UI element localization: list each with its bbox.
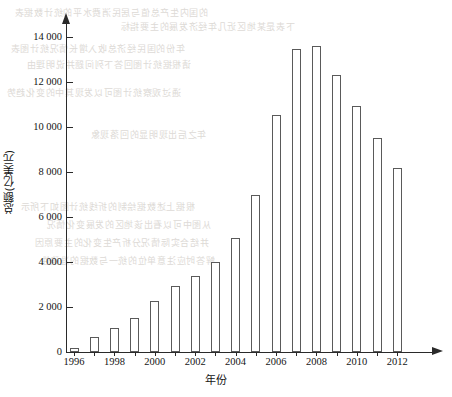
y-axis-tick-label-wrap: 2 000: [0, 302, 62, 313]
bar: [352, 106, 361, 352]
y-axis-tick-label-wrap: 4 000: [0, 257, 62, 268]
x-axis-arrowhead: [432, 347, 443, 355]
bar: [231, 238, 240, 352]
y-axis-tick-label: 6 000: [38, 212, 62, 223]
y-axis-tick-label: 12 000: [33, 77, 62, 88]
y-axis-tick-label-wrap: 0: [0, 347, 62, 358]
x-axis-title: 年份: [0, 371, 452, 387]
x-axis-tick-label: 2000: [135, 356, 175, 368]
y-axis-tick: [66, 262, 73, 263]
x-axis-title-text: 年份: [205, 371, 227, 387]
y-axis-tick: [66, 307, 73, 308]
y-axis-tick: [66, 127, 73, 128]
bar: [292, 49, 301, 352]
y-axis-arrowhead: [62, 13, 70, 24]
bar-chart: 02 0004 0006 0008 00010 00012 00014 000 …: [0, 0, 452, 397]
y-axis-tick: [66, 82, 73, 83]
y-axis-title: 总额(亿美元): [2, 150, 18, 214]
y-axis-tick: [66, 217, 73, 218]
plot-area: 02 0004 0006 0008 00010 00012 00014 000 …: [0, 0, 452, 397]
x-axis-tick-label: 2002: [175, 356, 215, 368]
x-axis-tick-label: 1996: [54, 356, 94, 368]
x-axis-tick-label: 2008: [296, 356, 336, 368]
y-axis-tick-label: 14 000: [33, 32, 62, 43]
y-axis-tick: [66, 352, 73, 353]
x-axis-tick-label: 2004: [216, 356, 256, 368]
y-axis-tick-label: 10 000: [33, 122, 62, 133]
x-axis-tick-label: 1998: [94, 356, 134, 368]
bar: [171, 286, 180, 352]
bar: [191, 276, 200, 353]
bar: [90, 337, 99, 352]
bar: [110, 328, 119, 352]
y-axis-tick-label-wrap: 10 000: [0, 122, 62, 133]
x-axis-line: [66, 352, 434, 353]
x-axis-tick-label: 2012: [377, 356, 417, 368]
y-axis-line: [66, 22, 67, 353]
y-axis-tick-label-wrap: 6 000: [0, 212, 62, 223]
x-axis-tick-label: 2010: [337, 356, 377, 368]
y-axis-tick-label: 4 000: [38, 257, 62, 268]
y-axis-tick-label-wrap: 14 000: [0, 32, 62, 43]
y-axis-tick: [66, 37, 73, 38]
bar: [251, 195, 260, 353]
y-axis-tick-label-wrap: 12 000: [0, 77, 62, 88]
bar: [373, 138, 382, 352]
x-axis-tick-label: 2006: [256, 356, 296, 368]
y-axis-tick-label: 2 000: [38, 302, 62, 313]
bar: [312, 46, 321, 352]
bar: [272, 115, 281, 352]
bar: [130, 318, 139, 352]
bar: [211, 262, 220, 352]
bar: [393, 168, 402, 353]
bar: [150, 301, 159, 352]
y-axis-tick-label: 8 000: [38, 167, 62, 178]
y-axis-tick: [66, 172, 73, 173]
bar: [332, 75, 341, 352]
